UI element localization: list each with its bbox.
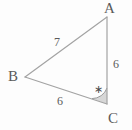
vertex-label-b: B	[8, 69, 18, 84]
side-length-bc: 6	[57, 95, 63, 107]
triangle-figure: A B C 7 6 6 ∗	[0, 0, 132, 130]
side-ab-line	[25, 17, 107, 77]
side-length-ca: 6	[113, 58, 119, 70]
angle-c-star-icon: ∗	[94, 84, 103, 95]
vertex-label-a: A	[104, 1, 115, 16]
vertex-label-c: C	[108, 111, 118, 126]
side-length-ab: 7	[54, 36, 60, 48]
